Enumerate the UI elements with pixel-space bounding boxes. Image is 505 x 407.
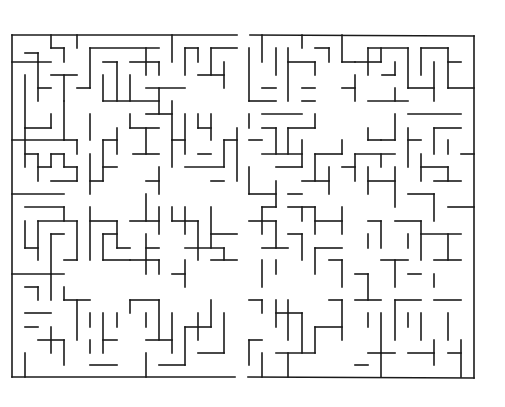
maze-wall	[248, 377, 474, 378]
maze-walls	[0, 0, 505, 407]
maze-wall	[250, 35, 474, 36]
